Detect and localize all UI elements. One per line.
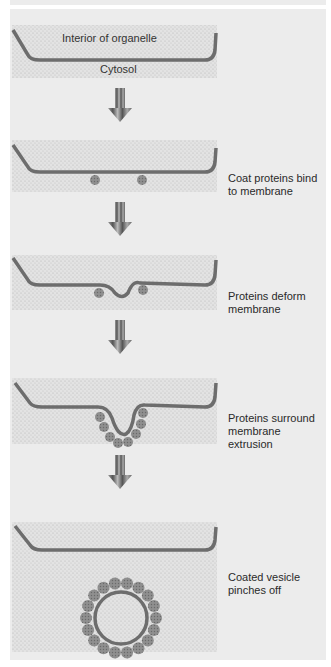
coat-protein-icon <box>98 642 110 654</box>
coat-protein-icon <box>88 590 100 602</box>
step-1-label: Coat proteins bind to membrane <box>228 172 317 198</box>
stage-3-deformation <box>12 255 217 310</box>
down-arrow-icon <box>108 88 132 122</box>
coat-protein-icon <box>142 590 154 602</box>
stipple-region <box>12 140 217 192</box>
coat-protein-icon <box>137 175 147 185</box>
coat-protein-icon <box>142 634 154 646</box>
coat-protein-icon <box>121 578 133 590</box>
coat-protein-icon <box>94 288 104 298</box>
coat-protein-icon <box>138 285 148 295</box>
coat-protein-icon <box>121 646 133 658</box>
coat-protein-icon <box>90 175 100 185</box>
vesicle-budding-diagram <box>0 0 331 667</box>
down-arrow-icon <box>108 320 132 354</box>
coat-protein-icon <box>82 624 94 636</box>
coat-protein-icon <box>88 634 100 646</box>
stage-5-pinch-off <box>12 522 217 658</box>
step-4-label: Coated vesicle pinches off <box>228 571 300 597</box>
down-arrow-icon <box>108 202 132 236</box>
stage-2-coat-binding <box>12 140 217 192</box>
coat-protein-icon <box>80 612 92 624</box>
interior-label: Interior of organelle <box>62 32 157 44</box>
step-3-label: Proteins surround membrane extrusion <box>228 412 315 451</box>
coat-protein-icon <box>133 642 145 654</box>
coat-protein-icon <box>148 600 160 612</box>
coat-protein-icon <box>109 646 121 658</box>
stipple-region <box>12 255 217 310</box>
coat-protein-icon <box>150 612 162 624</box>
coat-protein-icon <box>133 582 145 594</box>
step-2-label: Proteins deform membrane <box>228 290 306 316</box>
cytosol-label: Cytosol <box>100 63 137 75</box>
stage-4-surround <box>12 378 217 448</box>
down-arrow-icon <box>108 455 132 489</box>
coat-protein-icon <box>98 582 110 594</box>
coat-protein-icon <box>148 624 160 636</box>
coat-protein-icon <box>82 600 94 612</box>
stipple-region <box>12 378 217 444</box>
coat-protein-icon <box>109 578 121 590</box>
